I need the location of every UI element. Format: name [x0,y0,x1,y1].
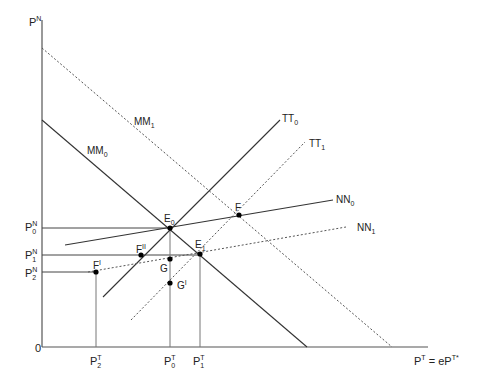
point-e0 [167,225,172,230]
label-fii: FII [136,243,146,255]
label-e1: E1 [195,240,206,252]
point-e1 [197,251,202,256]
curve-mm0 [42,120,307,347]
y-axis-label: PN [29,15,41,28]
y-tick-p2n: P2N [25,266,37,281]
curve-tt1 [131,142,305,320]
curve-tt0 [103,120,280,297]
curve-nn1 [88,227,346,272]
x-tick-p1t: P1T [193,354,205,369]
label-e0: E0 [164,214,175,226]
label-tt1: TT1 [309,139,325,151]
label-mm0: MM0 [87,146,108,158]
x-axis-label: PT = ePT* [414,354,459,367]
point-g [167,256,172,261]
label-mm1: MM1 [134,117,155,129]
point-f [236,212,241,217]
label-g: G [160,264,168,274]
label-f: F [235,203,241,213]
point-gi [167,280,172,285]
label-fi: FI [93,259,101,271]
label-tt0: TT0 [282,114,298,126]
diagram-canvas [0,0,477,379]
label-nn0: NN0 [336,195,354,207]
x-tick-p0t: P0T [164,354,176,369]
label-gi: GI [177,279,187,291]
origin-label: 0 [35,343,41,354]
label-nn1: NN1 [357,223,375,235]
x-tick-p2t: P2T [90,354,102,369]
y-tick-p0n: P0N [25,220,37,235]
y-tick-p1n: P1N [25,248,37,263]
